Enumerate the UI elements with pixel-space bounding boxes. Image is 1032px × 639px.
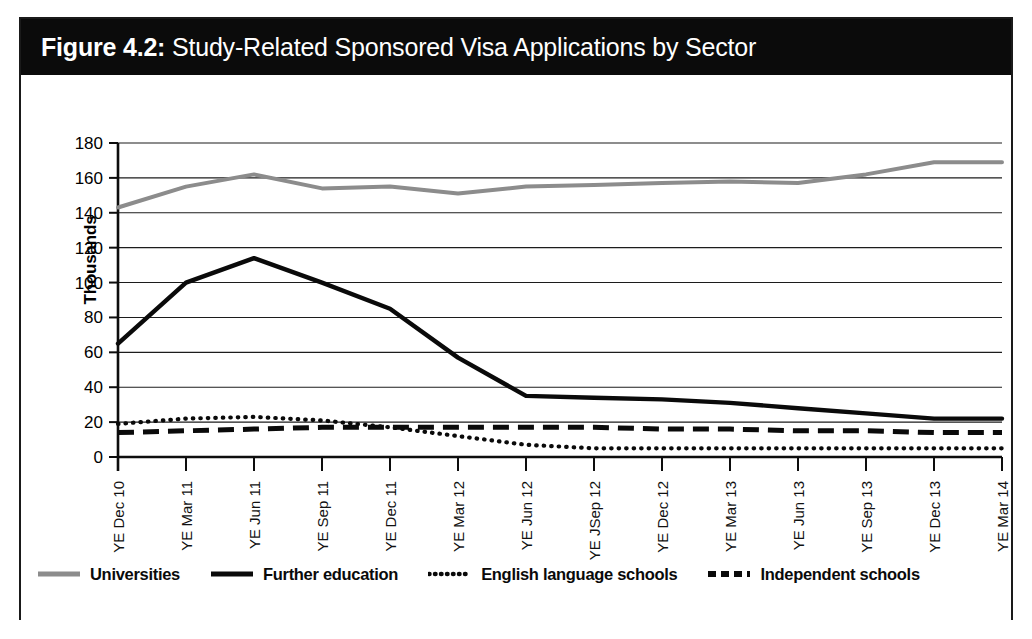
x-axis-tick-label: YE Mar 13 xyxy=(722,481,739,552)
x-axis-tick-label: YE Mar 11 xyxy=(178,481,195,551)
x-axis-tick-label: YE JSep 12 xyxy=(586,481,603,560)
y-axis-tick-label: 180 xyxy=(75,134,103,153)
y-axis-tick-label: 140 xyxy=(75,204,103,223)
y-axis-tick-label: 120 xyxy=(75,239,103,258)
figure-container: Figure 4.2: Study-Related Sponsored Visa… xyxy=(19,17,1013,620)
legend-swatch-dashed-icon xyxy=(707,566,751,582)
legend-item[interactable]: Universities xyxy=(37,565,180,584)
x-axis-tick-label: YE Dec 11 xyxy=(382,481,399,552)
legend-item[interactable]: Further education xyxy=(210,565,398,584)
x-axis-tick-label: YE Jun 12 xyxy=(518,481,535,550)
legend-label: English language schools xyxy=(481,565,677,584)
line-chart: 020406080100120140160180YE Dec 10YE Mar … xyxy=(21,75,1015,622)
legend-label: Independent schools xyxy=(760,565,919,584)
x-axis-tick-label: YE Sep 13 xyxy=(858,481,875,553)
y-axis-tick-label: 20 xyxy=(84,413,103,432)
legend-item[interactable]: English language schools xyxy=(428,565,677,584)
x-axis-tick-label: YE Mar 14 xyxy=(994,481,1011,552)
y-axis-tick-label: 60 xyxy=(84,343,103,362)
x-axis-tick-label: YE Sep 11 xyxy=(314,481,331,552)
x-axis-tick-label: YE Jun 11 xyxy=(246,481,263,549)
legend-label: Universities xyxy=(90,565,180,584)
figure-title-text: Study-Related Sponsored Visa Application… xyxy=(172,33,756,61)
y-axis-tick-label: 0 xyxy=(94,448,103,467)
x-axis-tick-label: YE Dec 10 xyxy=(110,481,127,553)
legend-swatch-solid-icon xyxy=(37,566,81,582)
legend-label: Further education xyxy=(263,565,398,584)
legend-swatch-dotted-icon xyxy=(428,566,472,582)
x-axis-tick-label: YE Dec 12 xyxy=(654,481,671,553)
legend-item[interactable]: Independent schools xyxy=(707,565,919,584)
x-axis-tick-label: YE Jun 13 xyxy=(790,481,807,550)
figure-title-bar: Figure 4.2: Study-Related Sponsored Visa… xyxy=(21,19,1011,75)
y-axis-tick-label: 100 xyxy=(75,274,103,293)
chart-plot-region: Thousands 020406080100120140160180YE Dec… xyxy=(21,75,1011,622)
series-line-independent-schools xyxy=(118,427,1002,432)
y-axis-tick-label: 40 xyxy=(84,378,103,397)
page-title: Figure 4.2: Study-Related Sponsored Visa… xyxy=(21,33,756,62)
series-line-universities xyxy=(118,162,1002,207)
x-axis-tick-label: YE Mar 12 xyxy=(450,481,467,552)
x-axis-tick-label: YE Dec 13 xyxy=(926,481,943,553)
y-axis-tick-label: 160 xyxy=(75,169,103,188)
chart-legend: UniversitiesFurther educationEnglish lan… xyxy=(21,557,1015,591)
legend-swatch-solid-icon xyxy=(210,566,254,582)
figure-number: Figure 4.2: xyxy=(41,33,165,61)
y-axis-tick-label: 80 xyxy=(84,308,103,327)
